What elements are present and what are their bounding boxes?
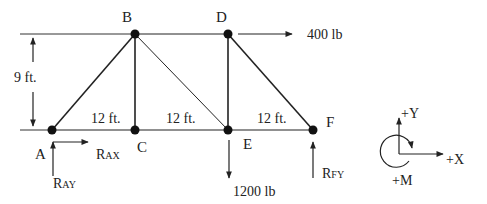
moment-arrow-icon [380, 135, 412, 167]
axis-m-label: +M [392, 173, 413, 188]
height-dimension-label: 9 ft. [14, 70, 37, 85]
load-1200-label: 1200 lb [233, 184, 275, 199]
reaction-RAY-label: RAY [53, 176, 76, 191]
axis-x-label: +X [446, 152, 464, 167]
joint-E [224, 126, 233, 135]
joint-label-E: E [243, 136, 252, 152]
span-EF-label: 12 ft. [257, 111, 287, 126]
joint-label-B: B [122, 9, 132, 25]
joint-label-A: A [35, 146, 46, 162]
joint-A [48, 126, 57, 135]
joint-F [309, 126, 318, 135]
joint-label-C: C [137, 139, 147, 155]
span-AC-label: 12 ft. [91, 111, 121, 126]
joint-C [131, 126, 140, 135]
joint-B [131, 30, 140, 39]
joint-D [224, 30, 233, 39]
axis-y-label: +Y [401, 106, 419, 121]
joint-label-D: D [216, 9, 227, 25]
joint-label-F: F [326, 114, 334, 130]
load-400-label: 400 lb [307, 27, 342, 42]
span-CE-label: 12 ft. [166, 111, 196, 126]
reaction-RAX-label: RAX [96, 147, 121, 162]
truss-diagram: 9 ft. A B C D E F 12 ft. 12 ft. 12 ft. 4… [0, 0, 487, 204]
reaction-RFY-label: RFY [322, 166, 344, 181]
sign-convention: +Y +X +M [380, 106, 464, 188]
